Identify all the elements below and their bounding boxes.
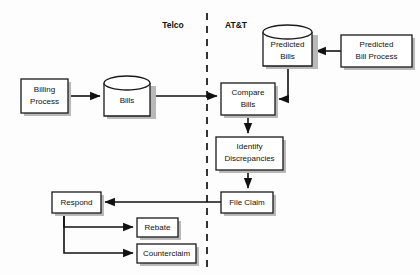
node-predicted-bill-process[interactable]: Predicted Bill Process [341,35,415,70]
node-bills[interactable]: Bills [104,76,156,119]
node-label-compare-bills-line2: Bills [241,100,256,109]
node-label-file-claim: File Claim [229,198,265,207]
edge-predictedbills-to-compare [279,66,288,99]
node-label-bills: Bills [120,96,135,105]
node-label-identify-discrepancies-line2: Discrepancies [224,154,274,163]
diagram-canvas: Telco AT&T [0,0,420,275]
node-label-respond: Respond [60,198,92,207]
node-label-billing-process-line2: Process [30,97,59,106]
node-label-predicted-bills-line2: Bills [280,52,295,61]
node-label-billing-process-line1: Billing [34,85,55,94]
node-respond[interactable]: Respond [52,192,104,216]
node-rebate[interactable]: Rebate [137,218,181,240]
node-label-predicted-bills-line1: Predicted [271,40,305,49]
node-billing-process[interactable]: Billing Process [21,79,71,116]
node-label-predicted-bill-process-line1: Predicted [360,40,394,49]
node-counterclaim[interactable]: Counterclaim [137,244,199,266]
flowchart-svg: Telco AT&T [0,0,420,275]
node-label-identify-discrepancies-line1: Identify [237,142,263,151]
node-compare-bills[interactable]: Compare Bills [221,83,278,118]
swimlane-label-telco: Telco [162,20,184,30]
node-file-claim[interactable]: File Claim [221,192,276,216]
node-identify-discrepancies[interactable]: Identify Discrepancies [216,137,286,173]
edge-respond-to-counterclaim [64,213,133,253]
node-label-compare-bills-line1: Compare [232,88,265,97]
node-label-predicted-bill-process-line2: Bill Process [356,52,398,61]
node-label-counterclaim: Counterclaim [143,249,190,258]
node-predicted-bills[interactable]: Predicted Bills [263,25,318,69]
node-label-rebate: Rebate [145,223,171,232]
swimlane-label-att: AT&T [225,20,248,30]
